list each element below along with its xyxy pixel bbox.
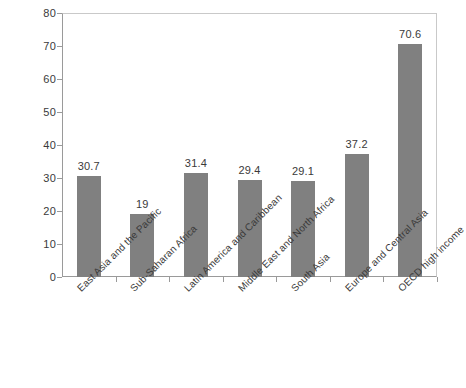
- bar-value-label: 19: [112, 199, 172, 210]
- x-axis-tick-mark: [169, 277, 170, 282]
- bar-value-label: 70.6: [380, 29, 440, 40]
- bar: [77, 176, 101, 277]
- x-axis-tick-mark: [330, 277, 331, 282]
- y-axis: 01020304050607080: [0, 0, 56, 388]
- y-axis-tick-mark: [57, 277, 62, 278]
- bar-value-label: 31.4: [166, 158, 226, 169]
- y-axis-tick-label: 60: [2, 74, 56, 85]
- x-axis-tick-mark: [276, 277, 277, 282]
- y-axis-tick-label: 80: [2, 8, 56, 19]
- y-axis-tick-label: 50: [2, 107, 56, 118]
- bar-value-label: 30.7: [59, 161, 119, 172]
- bar: [345, 154, 369, 277]
- x-axis-tick-mark: [437, 277, 438, 282]
- y-axis-tick-label: 20: [2, 206, 56, 217]
- y-axis-tick-label: 70: [2, 41, 56, 52]
- bar-value-label: 29.1: [273, 166, 333, 177]
- y-axis-tick-mark: [57, 145, 62, 146]
- x-axis-tick-mark: [223, 277, 224, 282]
- y-axis-tick-mark: [57, 178, 62, 179]
- bar-value-label: 29.4: [220, 165, 280, 176]
- y-axis-tick-label: 40: [2, 140, 56, 151]
- y-axis-tick-mark: [57, 112, 62, 113]
- y-axis-tick-mark: [57, 211, 62, 212]
- y-axis-tick-label: 30: [2, 173, 56, 184]
- y-axis-tick-mark: [57, 79, 62, 80]
- y-axis-tick-mark: [57, 13, 62, 14]
- x-axis-tick-mark: [116, 277, 117, 282]
- y-axis-tick-mark: [57, 46, 62, 47]
- y-axis-tick-mark: [57, 244, 62, 245]
- y-axis-tick-label: 0: [2, 272, 56, 283]
- y-axis-tick-label: 10: [2, 239, 56, 250]
- bar-value-label: 37.2: [327, 139, 387, 150]
- x-axis-tick-mark: [383, 277, 384, 282]
